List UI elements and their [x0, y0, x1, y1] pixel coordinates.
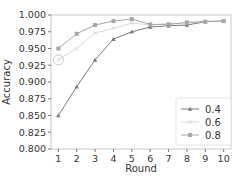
- legend-label: 0.4: [205, 104, 221, 115]
- square-marker-icon: [130, 17, 134, 21]
- y-axis-ticks: 0.8000.8250.8500.8750.9000.9250.9500.975…: [19, 9, 51, 154]
- square-marker-icon: [56, 47, 60, 51]
- y-tick-label: 0.900: [19, 76, 46, 87]
- x-tick-label: 1: [55, 153, 61, 164]
- y-tick-label: 1.000: [19, 9, 46, 20]
- y-tick-label: 0.850: [19, 110, 46, 121]
- x-tick-label: 3: [92, 153, 98, 164]
- y-tick-label: 0.950: [19, 43, 46, 54]
- square-marker-icon: [111, 19, 115, 23]
- y-axis-label: Accuracy: [1, 59, 12, 105]
- legend: 0.40.60.8: [176, 98, 231, 145]
- x-axis-ticks: 12345678910: [55, 149, 229, 164]
- square-marker-icon: [167, 22, 171, 26]
- square-marker-icon: [203, 20, 207, 24]
- square-marker-icon: [93, 23, 97, 27]
- legend-label: 0.6: [205, 117, 221, 128]
- square-marker-icon: [185, 20, 189, 24]
- x-tick-label: 2: [74, 153, 80, 164]
- x-tick-label: 10: [218, 153, 230, 164]
- y-tick-label: 0.925: [19, 60, 46, 71]
- y-tick-label: 0.825: [19, 127, 46, 138]
- x-tick-label: 8: [184, 153, 190, 164]
- y-tick-label: 0.975: [19, 26, 46, 37]
- legend-label: 0.8: [205, 130, 221, 141]
- accuracy-line-chart: 0.8000.8250.8500.8750.9000.9250.9500.975…: [0, 0, 240, 182]
- x-tick-label: 9: [202, 153, 208, 164]
- x-axis-label: Round: [125, 163, 157, 174]
- x-tick-label: 7: [166, 153, 172, 164]
- x-tick-label: 4: [110, 153, 116, 164]
- square-marker-icon: [222, 19, 226, 23]
- square-marker-icon: [148, 22, 152, 26]
- y-tick-label: 0.875: [19, 93, 46, 104]
- square-marker-icon: [75, 32, 79, 36]
- square-marker-icon: [188, 133, 192, 137]
- y-tick-label: 0.800: [19, 143, 46, 154]
